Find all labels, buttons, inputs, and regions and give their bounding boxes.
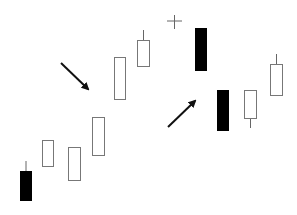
candle-bullish — [271, 54, 283, 96]
candle-bullish — [115, 58, 126, 100]
arrow-down-right-icon — [61, 63, 88, 89]
candle-bullish — [93, 118, 105, 156]
candle-doji — [167, 15, 182, 29]
candle-bearish — [218, 91, 229, 131]
arrow-up-right-icon — [168, 101, 195, 127]
candle-bullish — [69, 148, 81, 181]
candle-bearish — [21, 161, 32, 201]
candle-bearish — [196, 29, 207, 71]
candle-bullish — [138, 30, 150, 67]
annotations-group — [61, 63, 195, 127]
candle-bullish — [43, 141, 54, 167]
candle-bullish — [245, 91, 257, 129]
candles-group — [21, 15, 283, 201]
candlestick-chart — [0, 0, 297, 215]
